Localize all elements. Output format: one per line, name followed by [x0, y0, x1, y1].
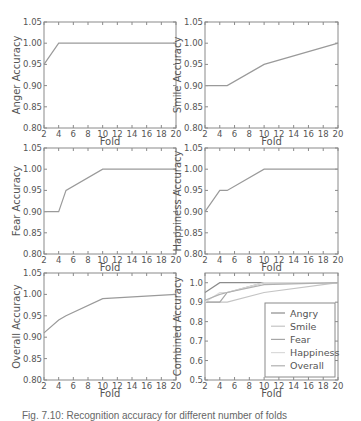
y-tick-label: 1.00	[23, 164, 42, 174]
x-tick-label: 14	[288, 381, 299, 391]
x-tick-label: 14	[127, 255, 138, 265]
plot-area	[44, 273, 176, 380]
x-tick-label: 6	[71, 381, 76, 391]
x-tick-label: 2	[41, 129, 46, 139]
x-axis-label: Fold	[261, 262, 282, 273]
y-tick-label: 0.80	[184, 249, 203, 259]
x-tick-label: 18	[318, 255, 329, 265]
y-tick-label: 0.80	[23, 375, 42, 385]
y-tick-label: 0.80	[184, 123, 203, 133]
x-tick-label: 16	[141, 129, 152, 139]
plot-area	[44, 148, 176, 254]
x-tick-label: 16	[303, 255, 314, 265]
x-tick-label: 8	[85, 381, 90, 391]
x-tick-label: 8	[85, 129, 90, 139]
x-tick-label: 20	[171, 255, 182, 265]
y-tick-label: 0.90	[23, 207, 42, 217]
x-tick-label: 18	[156, 255, 167, 265]
y-tick-label: 1.00	[23, 38, 42, 48]
y-tick-label: 0.85	[23, 354, 42, 364]
y-tick-label: 0.85	[23, 102, 42, 112]
figure-caption: Fig. 7.10: Recognition accuracy for diff…	[22, 410, 287, 421]
x-tick-label: 14	[288, 129, 299, 139]
x-tick-label: 2	[202, 129, 207, 139]
x-tick-label: 2	[202, 255, 207, 265]
y-tick-label: 0.7	[189, 336, 203, 346]
x-tick-label: 16	[141, 255, 152, 265]
y-tick-label: 0.95	[184, 59, 203, 69]
y-tick-label: 0.85	[184, 228, 203, 238]
x-tick-label: 14	[127, 129, 138, 139]
x-tick-label: 18	[156, 381, 167, 391]
legend-label: Happiness	[290, 347, 339, 358]
x-axis-label: Fold	[100, 262, 121, 273]
x-tick-label: 14	[127, 381, 138, 391]
x-tick-label: 6	[71, 129, 76, 139]
x-axis-label: Fold	[261, 136, 282, 147]
y-tick-label: 0.95	[23, 59, 42, 69]
y-tick-label: 1.0	[189, 278, 203, 288]
chart-panel-3: 24681012141618200.800.850.900.951.001.05…	[11, 143, 181, 273]
x-axis-label: Fold	[100, 388, 121, 399]
x-tick-label: 16	[303, 381, 314, 391]
x-tick-label: 4	[217, 129, 222, 139]
y-tick-label: 0.85	[184, 102, 203, 112]
y-tick-label: 1.00	[184, 164, 203, 174]
x-axis-label: Fold	[261, 388, 282, 399]
x-tick-label: 6	[71, 255, 76, 265]
legend-label: Overall	[290, 360, 324, 371]
chart-panel-6: 24681012141618200.50.60.70.80.91.0FoldCo…	[172, 273, 343, 399]
x-tick-label: 4	[217, 381, 222, 391]
y-tick-label: 0.6	[189, 356, 203, 366]
plot-area	[44, 22, 176, 128]
x-tick-label: 4	[56, 129, 61, 139]
x-tick-label: 6	[232, 381, 237, 391]
x-tick-label: 8	[247, 255, 252, 265]
x-axis-label: Fold	[100, 136, 121, 147]
y-axis-label: Smile Accuracy	[172, 37, 183, 114]
y-tick-label: 0.90	[23, 332, 42, 342]
chart-panel-5: 24681012141618200.800.850.900.951.001.05…	[11, 268, 181, 399]
x-tick-label: 8	[247, 129, 252, 139]
y-tick-label: 1.05	[23, 143, 42, 153]
x-tick-label: 20	[171, 129, 182, 139]
y-axis-label: Anger Accuracy	[11, 36, 22, 115]
y-tick-label: 0.95	[184, 185, 203, 195]
y-tick-label: 1.05	[184, 143, 203, 153]
x-tick-label: 2	[202, 381, 207, 391]
chart-panel-2: 24681012141618200.800.850.900.951.001.05…	[172, 17, 343, 147]
y-tick-label: 0.90	[184, 81, 203, 91]
y-axis-label: Happiness Accuracy	[172, 150, 183, 251]
y-tick-label: 1.05	[184, 17, 203, 27]
x-tick-label: 18	[318, 381, 329, 391]
x-tick-label: 2	[41, 255, 46, 265]
y-tick-label: 0.90	[184, 207, 203, 217]
x-tick-label: 18	[318, 129, 329, 139]
y-tick-label: 0.5	[189, 375, 203, 385]
y-tick-label: 0.95	[23, 185, 42, 195]
y-tick-label: 1.00	[23, 289, 42, 299]
legend-label: Angry	[290, 308, 318, 319]
x-tick-label: 20	[333, 129, 344, 139]
x-tick-label: 20	[171, 381, 182, 391]
y-tick-label: 0.9	[189, 297, 203, 307]
x-tick-label: 4	[217, 255, 222, 265]
x-tick-label: 4	[56, 255, 61, 265]
legend: AngrySmileFearHappinessOverall	[265, 303, 339, 377]
y-axis-label: Combined Accuracy	[172, 277, 183, 377]
plot-area	[205, 148, 338, 254]
x-tick-label: 20	[333, 381, 344, 391]
x-tick-label: 18	[156, 129, 167, 139]
y-tick-label: 0.95	[23, 311, 42, 321]
y-tick-label: 1.05	[23, 268, 42, 278]
x-tick-label: 16	[303, 129, 314, 139]
x-tick-label: 20	[333, 255, 344, 265]
y-axis-label: Fear Accuracy	[11, 166, 22, 237]
x-tick-label: 2	[41, 381, 46, 391]
legend-label: Smile	[290, 321, 317, 332]
x-tick-label: 8	[247, 381, 252, 391]
chart-panel-1: 24681012141618200.800.850.900.951.001.05…	[11, 17, 181, 147]
x-tick-label: 6	[232, 129, 237, 139]
y-tick-label: 0.85	[23, 228, 42, 238]
